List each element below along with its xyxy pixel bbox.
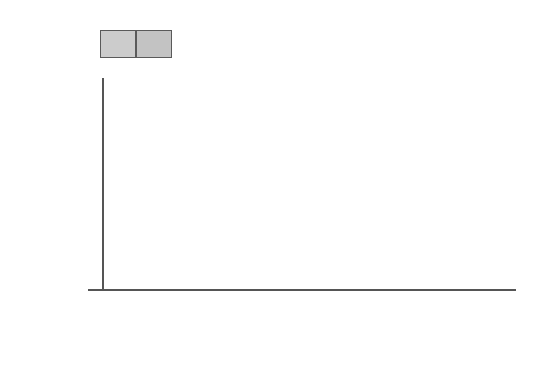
legend-swatch-boys <box>100 30 136 58</box>
legend-row <box>0 30 300 60</box>
chart-legend <box>0 4 320 66</box>
legend-swatch-girls <box>136 30 172 58</box>
x-axis-line <box>88 289 516 291</box>
bars-group <box>103 78 515 289</box>
chart-figure <box>0 0 538 384</box>
